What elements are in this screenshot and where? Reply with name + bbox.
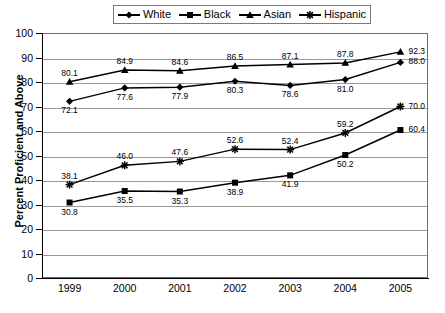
data-point-label: 70.0 [408, 102, 425, 111]
square-marker-icon [179, 9, 201, 20]
y-axis-label: 0 [0, 273, 33, 283]
legend-entry-hispanic[interactable]: Hispanic [297, 9, 368, 20]
y-axis-label: 30 [0, 200, 33, 210]
data-point-marker [122, 188, 128, 194]
legend-label: Hispanic [324, 9, 366, 20]
data-point-label: 52.6 [227, 136, 244, 145]
series-layer [42, 33, 428, 278]
data-point-label: 35.5 [116, 196, 133, 205]
legend-label: Black [204, 9, 231, 20]
y-axis-label: 70 [0, 102, 33, 112]
x-axis-label: 2005 [377, 283, 423, 294]
data-point-marker [397, 59, 404, 66]
data-point-label: 84.9 [116, 57, 133, 66]
legend-label: Asian [264, 9, 292, 20]
y-axis-label: 40 [0, 175, 33, 185]
y-axis-label: 90 [0, 53, 33, 63]
y-axis-label: 60 [0, 126, 33, 136]
data-point-label: 77.9 [172, 92, 189, 101]
y-axis-label: 20 [0, 224, 33, 234]
y-axis-label: 50 [0, 151, 33, 161]
data-point-marker [396, 103, 404, 111]
y-axis-label: 100 [0, 28, 33, 38]
data-point-label: 80.1 [61, 69, 78, 78]
legend-entry-asian[interactable]: Asian [237, 9, 294, 20]
data-point-marker [342, 76, 349, 83]
data-point-label: 88.0 [408, 57, 425, 66]
chart-legend: WhiteBlackAsianHispanic [113, 5, 371, 24]
x-axis-label: 2000 [102, 283, 148, 294]
y-axis-label: 10 [0, 249, 33, 259]
x-axis-label: 2002 [212, 283, 258, 294]
y-axis-tick [36, 278, 42, 279]
data-point-label: 86.5 [227, 53, 244, 62]
data-point-label: 38.9 [227, 188, 244, 197]
data-point-marker [66, 98, 73, 105]
asterisk-marker-icon [299, 9, 321, 20]
data-point-marker [397, 48, 405, 55]
data-point-label: 92.3 [408, 47, 425, 56]
chart-page: WhiteBlackAsianHispanic Percent Proficie… [0, 0, 445, 313]
data-point-label: 35.3 [172, 197, 189, 206]
data-point-label: 59.2 [337, 120, 354, 129]
data-point-marker [231, 78, 238, 85]
series-hispanic [66, 103, 405, 189]
data-point-marker [121, 84, 128, 91]
data-point-marker [397, 127, 403, 133]
x-axis-line [36, 278, 429, 279]
data-point-marker [176, 84, 183, 91]
data-point-marker [341, 129, 349, 137]
y-axis-label: 80 [0, 77, 33, 87]
data-point-label: 52.4 [282, 137, 299, 146]
x-axis-label: 2001 [157, 283, 203, 294]
triangle-marker-icon [239, 9, 261, 20]
data-point-marker [121, 161, 129, 169]
data-point-marker [286, 146, 294, 154]
data-point-label: 50.2 [337, 160, 354, 169]
data-point-marker [177, 189, 183, 195]
legend-entry-black[interactable]: Black [177, 9, 233, 20]
data-point-label: 47.6 [172, 148, 189, 157]
x-axis-label: 2003 [267, 283, 313, 294]
data-point-label: 41.9 [282, 180, 299, 189]
data-point-marker [67, 200, 73, 206]
diamond-marker-icon [118, 9, 140, 20]
data-point-label: 81.0 [337, 85, 354, 94]
data-point-label: 78.6 [282, 90, 299, 99]
data-point-marker [176, 157, 184, 165]
data-point-label: 30.8 [61, 208, 78, 217]
data-point-label: 38.1 [61, 172, 78, 181]
data-point-marker [232, 180, 238, 186]
data-point-label: 80.3 [227, 86, 244, 95]
x-axis-label: 2004 [322, 283, 368, 294]
legend-label: White [143, 9, 171, 20]
data-point-label: 84.6 [172, 58, 189, 67]
data-point-marker [287, 82, 294, 89]
x-axis-label: 1999 [47, 283, 93, 294]
data-point-label: 72.1 [61, 106, 78, 115]
legend-entry-white[interactable]: White [116, 9, 173, 20]
data-point-label: 46.0 [116, 152, 133, 161]
data-point-marker [231, 145, 239, 153]
data-point-label: 87.1 [282, 52, 299, 61]
data-point-label: 77.6 [116, 93, 133, 102]
data-point-marker [342, 152, 348, 158]
data-point-label: 60.4 [408, 125, 425, 134]
data-point-label: 87.8 [337, 50, 354, 59]
data-point-marker [287, 172, 293, 178]
data-point-marker [66, 181, 74, 189]
